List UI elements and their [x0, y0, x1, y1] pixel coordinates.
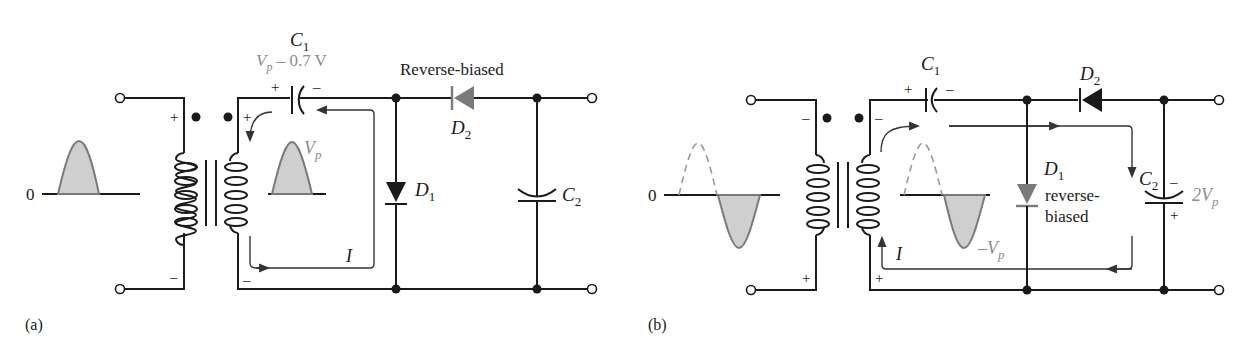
polarity-dot-secondary-a: [224, 113, 233, 122]
primary-plus-b: +: [802, 270, 810, 286]
transformer-a: [124, 98, 398, 289]
c1-plus-b: +: [904, 81, 912, 97]
node-bottom-left-b: [1023, 286, 1032, 295]
polarity-dot-primary-a: [192, 113, 201, 122]
c2-label-a: C2: [562, 184, 581, 209]
d1-label-b: D1: [1043, 158, 1064, 183]
polarity-dot-secondary-b: [855, 114, 864, 123]
secondary-plus-a: +: [243, 109, 251, 125]
c2-label-b: C2: [1139, 168, 1158, 193]
input-waveform-b: [664, 143, 780, 248]
circuit-b: 0 – + – +: [648, 53, 1224, 334]
secondary-minus-b: –: [874, 110, 883, 126]
c2-voltage-b: 2Vp: [1192, 185, 1219, 209]
diode-d1-a: [385, 98, 407, 289]
primary-minus-a: –: [169, 269, 178, 285]
input-terminal-top-a: [116, 94, 125, 103]
d2-label-a: D2: [450, 117, 471, 142]
input-waveform-a: [42, 141, 140, 194]
input-terminal-bottom-a: [116, 285, 125, 294]
capacitor-c2-b: [1145, 100, 1183, 290]
zero-label-a: 0: [26, 185, 35, 204]
output-terminal-top-b: [1215, 96, 1224, 105]
c2-minus-b: –: [1169, 174, 1178, 190]
c1-plus-a: +: [271, 79, 279, 95]
node-bottom-right-a: [533, 285, 542, 294]
node-bottom-right-b: [1160, 286, 1169, 295]
primary-minus-b: –: [801, 110, 810, 126]
vp-label-a: Vp: [304, 138, 322, 162]
d2-label-b: D2: [1079, 63, 1100, 88]
d1-state-line2-b: biased: [1045, 207, 1089, 226]
node-bottom-left-a: [392, 285, 401, 294]
diode-d2-a: [452, 86, 474, 110]
capacitor-c2-a: [518, 98, 556, 289]
output-terminal-bottom-b: [1215, 286, 1224, 295]
current-label-a: I: [345, 246, 353, 266]
primary-plus-a: +: [170, 109, 178, 125]
secondary-minus-a: –: [242, 272, 251, 288]
c1-minus-a: –: [312, 79, 321, 95]
secondary-waveform-b: [900, 143, 990, 248]
neg-vp-label-b: –Vp: [977, 238, 1005, 262]
output-terminal-top-a: [588, 94, 597, 103]
figure-label-b: (b): [648, 316, 667, 334]
polarity-dot-primary-b: [823, 114, 832, 123]
secondary-plus-b: +: [875, 270, 883, 286]
diode-d2-b: [1080, 88, 1102, 112]
voltage-doubler-figure: 0 +: [0, 0, 1250, 358]
input-terminal-bottom-b: [747, 286, 756, 295]
c1-label-b: C1: [921, 53, 940, 78]
d2-state-a: Reverse-biased: [400, 60, 504, 79]
zero-label-b: 0: [648, 186, 657, 205]
c1-minus-b: –: [945, 81, 954, 97]
c1-voltage-a: Vp – 0.7 V: [256, 51, 328, 74]
figure-label-a: (a): [25, 316, 43, 334]
output-terminal-bottom-a: [588, 285, 597, 294]
c2-plus-b: +: [1170, 207, 1178, 223]
d1-state-line1-b: reverse-: [1045, 186, 1100, 205]
input-terminal-top-b: [747, 96, 756, 105]
current-label-b: I: [895, 244, 903, 264]
circuit-a: 0 +: [25, 29, 597, 334]
diode-d1-b: [1016, 100, 1038, 290]
capacitor-c1-b: [926, 88, 1026, 112]
d1-label-a: D1: [414, 179, 435, 204]
